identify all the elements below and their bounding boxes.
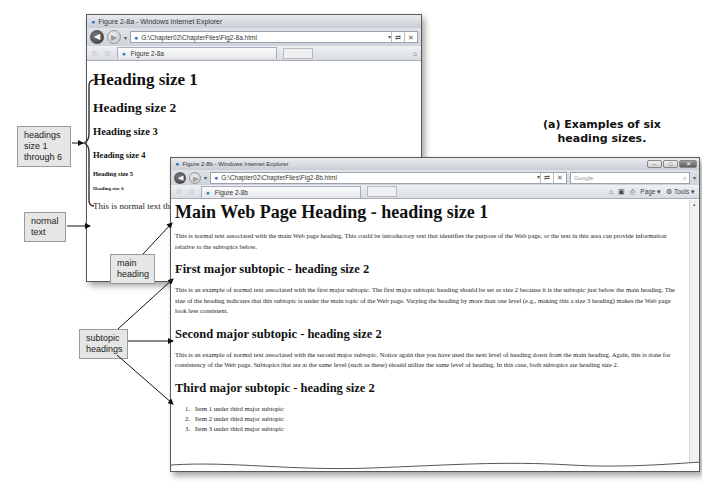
add-favorites-icon[interactable]: ☆ <box>188 187 195 196</box>
stop-icon[interactable]: ✕ <box>404 32 417 43</box>
home-icon[interactable]: ⌂ <box>609 188 613 196</box>
url-input[interactable]: ● G:\Chapter02\ChapterFiles\Fig2-8a.html… <box>130 31 418 43</box>
refresh-icon[interactable]: ⇄ <box>391 32 404 43</box>
page-icon: ● <box>134 32 138 43</box>
address-bar: ◀ ▶ ▾ ● G:\Chapter02\ChapterFiles\Fig2-8… <box>87 28 421 46</box>
ordered-list: 1.Item 1 under third major subtopic 2.It… <box>185 404 683 434</box>
list-item: 2.Item 2 under third major subtopic <box>185 414 683 424</box>
tab-figure-2-8a[interactable]: ● Figure 2-8a <box>117 47 277 59</box>
add-favorites-icon[interactable]: ☆ <box>104 49 111 58</box>
gear-icon: ⚙ <box>666 188 672 195</box>
list-item: 1.Item 1 under third major subtopic <box>185 404 683 414</box>
forward-button[interactable]: ▶ <box>107 30 121 44</box>
callout-main-heading: main heading <box>110 254 155 284</box>
callout-normal-text: normal text <box>24 212 66 242</box>
search-placeholder: Google <box>574 173 593 183</box>
command-bar: ⌂ ▣ ⎙ Page ▾ ⚙ Tools ▾ <box>609 188 695 196</box>
favorites-center-icon[interactable]: ☆ <box>91 49 98 58</box>
subtopic-2-paragraph: This is an example of normal text associ… <box>175 350 683 371</box>
page-icon: ● <box>206 189 210 196</box>
title-bar: ● Figure 2-8a - Windows Internet Explore… <box>87 15 421 28</box>
torn-edge <box>171 459 700 472</box>
address-bar: ◀ ▶ ▾ ● G:\Chapter02\ChapterFiles\Fig2-8… <box>171 170 699 185</box>
browser-window-fig2-8b: ● Figure 2-8b - Windows Internet Explore… <box>170 157 700 472</box>
url-input[interactable]: ● G:\Chapter02\ChapterFiles\Fig2-8b.html… <box>210 172 567 184</box>
page-content: Main Web Page Heading - heading size 1 T… <box>171 200 699 471</box>
ie-icon: ● <box>175 158 179 170</box>
back-button[interactable]: ◀ <box>174 172 186 184</box>
forward-button[interactable]: ▶ <box>189 172 201 184</box>
title-bar: ● Figure 2-8b - Windows Internet Explore… <box>171 158 699 170</box>
subtopic-3-heading: Third major subtopic - heading size 2 <box>175 381 683 396</box>
history-dropdown-icon[interactable]: ▾ <box>124 34 127 41</box>
callout-subtopic-headings: subtopic headings <box>79 329 128 359</box>
heading-size-1: Heading size 1 <box>93 70 421 90</box>
url-text: G:\Chapter02\ChapterFiles\Fig2-8a.html <box>141 32 257 43</box>
back-button[interactable]: ◀ <box>90 30 104 44</box>
figure-caption: (a) Examples of six heading sizes. <box>543 118 661 146</box>
restore-button[interactable]: □ <box>663 160 678 168</box>
chevron-down-icon: ▾ <box>691 188 695 195</box>
search-input[interactable]: Google ⌕ <box>570 172 690 184</box>
subtopic-1-heading: First major subtopic - heading size 2 <box>175 262 683 277</box>
feeds-icon[interactable]: ▣ <box>618 188 625 196</box>
main-heading: Main Web Page Heading - heading size 1 <box>175 202 683 223</box>
new-tab-button[interactable] <box>367 186 397 197</box>
ie-icon: ● <box>91 15 95 28</box>
vertical-scrollbar[interactable]: ▴ <box>689 200 699 471</box>
tab-label: Figure 2-8b <box>215 189 248 196</box>
window-title: Figure 2-8a - Windows Internet Explorer <box>98 15 222 28</box>
close-button[interactable]: ✕ <box>679 160 697 168</box>
subtopic-2-heading: Second major subtopic - heading size 2 <box>175 327 683 342</box>
search-icon[interactable]: ⌕ <box>683 173 689 183</box>
page-menu[interactable]: Page ▾ <box>640 188 661 196</box>
print-icon[interactable]: ⎙ <box>630 188 635 196</box>
callout-headings: headings size 1 through 6 <box>17 126 71 167</box>
page-icon: ● <box>122 50 126 57</box>
window-title: Figure 2-8b - Windows Internet Explorer <box>182 158 288 170</box>
home-icon[interactable]: ⌂ <box>413 50 417 57</box>
minimize-button[interactable]: – <box>647 160 662 168</box>
favorites-bar: ☆ ☆ ● Figure 2-8a ⌂ <box>87 46 421 61</box>
tools-menu-label: Tools <box>674 188 689 195</box>
page-menu-label: Page <box>640 188 655 195</box>
favorites-bar: ☆ ☆ ● Figure 2-8b ⌂ ▣ ⎙ Page ▾ ⚙ Tools ▾ <box>171 185 699 199</box>
stop-icon[interactable]: ✕ <box>553 172 566 183</box>
history-dropdown-icon[interactable]: ▾ <box>204 174 207 181</box>
new-tab-button[interactable] <box>283 48 313 59</box>
favorites-center-icon[interactable]: ☆ <box>175 187 182 196</box>
scroll-up-icon[interactable]: ▴ <box>690 200 699 208</box>
tab-figure-2-8b[interactable]: ● Figure 2-8b <box>201 186 361 198</box>
subtopic-1-paragraph: This is an example of normal text associ… <box>175 285 683 317</box>
list-item: 3.Item 3 under third major subtopic <box>185 424 683 434</box>
tools-menu[interactable]: ⚙ Tools ▾ <box>666 188 695 196</box>
page-icon: ● <box>214 172 218 183</box>
refresh-icon[interactable]: ⇄ <box>540 172 553 183</box>
heading-size-2: Heading size 2 <box>93 100 421 116</box>
search-options-icon[interactable]: ▾ <box>693 174 696 181</box>
main-paragraph: This is normal text associated with the … <box>175 231 683 252</box>
tab-label: Figure 2-8a <box>131 50 164 57</box>
chevron-down-icon: ▾ <box>657 188 661 195</box>
heading-size-3: Heading size 3 <box>93 126 421 137</box>
window-controls: – □ ✕ <box>647 160 699 168</box>
url-text: G:\Chapter02\ChapterFiles\Fig2-8b.html <box>221 172 337 183</box>
